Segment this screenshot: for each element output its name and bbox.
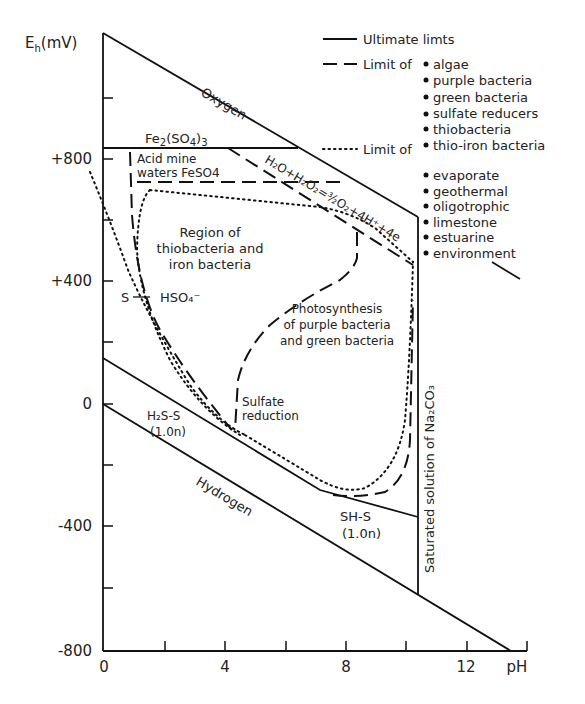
photosynthesis-label-1: Photosynthesis	[292, 302, 383, 316]
legend-dotted-items: evaporate geothermal oligotrophic limest…	[424, 168, 516, 261]
fe2so43-label: Fe2(SO4)3	[145, 131, 208, 148]
region-label-3: iron bacteria	[169, 257, 251, 272]
legend-dotted-label: Limit of	[363, 142, 412, 157]
legend-item-limestone: limestone	[433, 215, 497, 230]
y-tick-label-800: +800	[51, 150, 92, 168]
region-label-2: thiobacteria and	[157, 241, 264, 256]
y-tick-label-neg400: -400	[58, 517, 92, 535]
legend-item-environment: environment	[433, 246, 516, 261]
sulfate-label-2: reduction	[242, 409, 299, 423]
x-tick-label-8: 8	[341, 658, 351, 676]
s-label: S	[121, 290, 129, 305]
photosynthesis-label-3: and green bacteria	[280, 334, 394, 348]
hydrogen-line	[103, 404, 511, 651]
bullet-icon	[424, 127, 429, 132]
x-axis-title: pH	[507, 658, 528, 676]
legend-dashed-items: algae purple bacteria green bacteria sul…	[424, 57, 546, 153]
y-tick-label-400: +400	[51, 272, 92, 290]
y-axis-title: Eh(mV)	[25, 34, 77, 54]
h2s-label-1: H₂S-S	[147, 409, 180, 423]
legend-item-oligotrophic: oligotrophic	[433, 199, 510, 214]
x-ticks	[165, 641, 527, 651]
bullet-icon	[424, 112, 429, 117]
shs-label-2: (1.0n)	[342, 526, 381, 541]
bullet-icon	[424, 204, 429, 209]
sulfate-label-1: Sulfate	[242, 395, 284, 409]
x-tick-label-12: 12	[456, 658, 475, 676]
legend-item-algae: algae	[433, 57, 469, 72]
bullet-icon	[424, 235, 429, 240]
legend-dashed-label: Limit of	[363, 57, 412, 72]
photosynthesis-label-2: of purple bacteria	[284, 318, 391, 332]
bullet-icon	[424, 78, 429, 83]
region-label-1: Region of	[179, 225, 241, 240]
legend-item-purple-bacteria: purple bacteria	[433, 73, 532, 88]
oxygen-label: Oxygen	[199, 85, 250, 123]
y-tick-label-neg800: -800	[58, 642, 92, 660]
eh-ph-diagram: +800 +400 0 -400 -800 0 4 8 12 pH Eh(mV)	[0, 0, 585, 704]
h2s-label-2: (1.0n)	[150, 425, 186, 439]
legend-item-thio-iron-bacteria: thio-iron bacteria	[433, 138, 545, 153]
bullet-icon	[424, 189, 429, 194]
bullet-icon	[424, 95, 429, 100]
hydrogen-label: Hydrogen	[193, 474, 255, 519]
acid-mine-label-2: waters FeSO4	[137, 166, 220, 180]
legend-item-estuarine: estuarine	[433, 230, 494, 245]
hso4-label: HSO₄⁻	[160, 290, 200, 305]
bullet-icon	[424, 62, 429, 67]
legend-item-green-bacteria: green bacteria	[433, 90, 528, 105]
bullet-icon	[424, 220, 429, 225]
extension-line	[492, 262, 520, 279]
diagram-labels: Oxygen Hydrogen Fe2(SO4)3 Acid mine wate…	[121, 85, 437, 573]
bullet-icon	[424, 251, 429, 256]
x-tick-label-4: 4	[220, 658, 230, 676]
legend: Ultimate limts Limit of Limit of algae p…	[323, 32, 545, 261]
y-ticks	[103, 98, 113, 588]
legend-item-evaporate: evaporate	[433, 168, 499, 183]
acid-mine-label-1: Acid mine	[137, 152, 196, 166]
x-tick-label-0: 0	[99, 658, 109, 676]
legend-item-thiobacteria: thiobacteria	[433, 122, 511, 137]
shs-label-1: SH-S	[340, 509, 371, 524]
bullet-icon	[424, 143, 429, 148]
legend-item-sulfate-reducers: sulfate reducers	[433, 106, 538, 121]
legend-item-geothermal: geothermal	[433, 184, 508, 199]
legend-solid-label: Ultimate limts	[363, 32, 455, 47]
environment-right-dotted	[245, 262, 413, 490]
y-tick-label-0: 0	[82, 395, 92, 413]
bullet-icon	[424, 173, 429, 178]
na2co3-label: Saturated solution of Na₂CO₃	[422, 385, 437, 573]
